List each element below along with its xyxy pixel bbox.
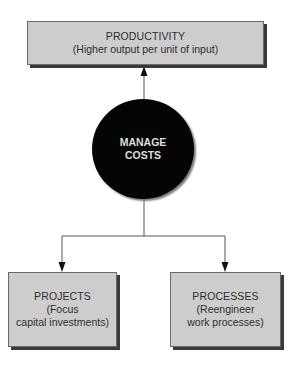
productivity-subtitle: (Higher output per unit of input) — [73, 43, 218, 56]
projects-title: PROJECTS — [34, 290, 91, 303]
arrowhead-down-right-icon — [222, 262, 229, 272]
processes-line3: work processes) — [187, 316, 263, 329]
manage-costs-circle: MANAGE COSTS — [92, 99, 194, 199]
manage-costs-line1: MANAGE — [120, 136, 167, 149]
projects-box: PROJECTS (Focus capital investments) — [8, 272, 117, 347]
productivity-box: PRODUCTIVITY (Higher output per unit of … — [27, 21, 264, 65]
projects-line3: capital investments) — [16, 316, 109, 329]
productivity-title: PRODUCTIVITY — [106, 30, 185, 43]
manage-costs-diagram: PRODUCTIVITY (Higher output per unit of … — [0, 0, 298, 368]
processes-box: PROCESSES (Reengineer work processes) — [170, 272, 281, 347]
arrowhead-up-icon — [141, 66, 148, 76]
processes-line2: (Reengineer — [197, 303, 255, 316]
arrowhead-down-left-icon — [59, 262, 66, 272]
processes-title: PROCESSES — [192, 290, 258, 303]
projects-line2: (Focus — [46, 303, 78, 316]
manage-costs-line2: COSTS — [125, 149, 161, 162]
